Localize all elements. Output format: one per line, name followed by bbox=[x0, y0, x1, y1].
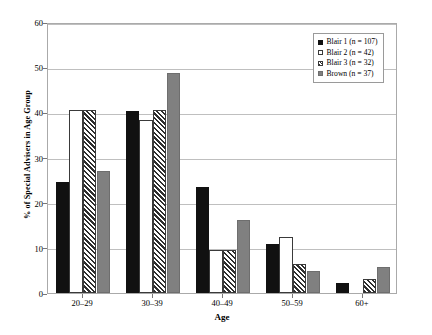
bar bbox=[126, 111, 139, 293]
x-tick-mark bbox=[82, 294, 83, 298]
y-tick-mark bbox=[43, 203, 47, 204]
x-tick-mark bbox=[362, 294, 363, 298]
y-tick-mark bbox=[43, 23, 47, 24]
bar bbox=[293, 264, 306, 293]
x-tick-mark bbox=[292, 294, 293, 298]
x-tick-label: 60+ bbox=[355, 298, 368, 308]
y-tick-mark bbox=[43, 248, 47, 249]
legend-label: Brown (n = 37) bbox=[327, 69, 374, 80]
bar bbox=[83, 110, 96, 293]
bar bbox=[223, 250, 236, 293]
y-tick-mark bbox=[43, 68, 47, 69]
bar bbox=[196, 187, 209, 293]
bar bbox=[363, 279, 376, 293]
bar bbox=[266, 244, 279, 293]
x-tick-label: 30–39 bbox=[141, 298, 162, 308]
y-tick-label: 20 bbox=[11, 199, 43, 209]
x-tick-label: 50–59 bbox=[281, 298, 302, 308]
bar bbox=[153, 110, 166, 293]
bar bbox=[56, 182, 69, 293]
x-tick-mark bbox=[152, 294, 153, 298]
bar bbox=[336, 283, 349, 293]
x-tick-mark bbox=[222, 294, 223, 298]
bar-chart: % of Special Advisers in Age Group 01020… bbox=[0, 0, 432, 335]
legend-label: Blair 3 (n = 32) bbox=[327, 58, 374, 69]
legend-item: Blair 2 (n = 42) bbox=[318, 48, 378, 59]
y-tick-label: 50 bbox=[11, 63, 43, 73]
legend-swatch-icon bbox=[318, 50, 323, 55]
bar bbox=[139, 120, 152, 293]
legend-item: Blair 1 (n = 107) bbox=[318, 37, 378, 48]
bar bbox=[167, 73, 180, 293]
y-tick-label: 40 bbox=[11, 108, 43, 118]
legend-swatch-icon bbox=[318, 71, 323, 76]
x-axis-title: Age bbox=[47, 312, 397, 322]
legend-swatch-icon bbox=[318, 40, 323, 45]
x-tick-label: 40–49 bbox=[211, 298, 232, 308]
y-tick-mark bbox=[43, 158, 47, 159]
bar bbox=[377, 267, 390, 293]
bar bbox=[209, 250, 222, 293]
y-tick-mark bbox=[43, 294, 47, 295]
legend-item: Brown (n = 37) bbox=[318, 69, 378, 80]
bar bbox=[279, 237, 292, 293]
bar bbox=[69, 110, 82, 293]
x-tick-label: 20–29 bbox=[71, 298, 92, 308]
bar-group bbox=[126, 24, 181, 293]
bar bbox=[307, 271, 320, 293]
bar bbox=[237, 220, 250, 293]
legend-label: Blair 2 (n = 42) bbox=[327, 48, 374, 59]
bar-group bbox=[56, 24, 111, 293]
legend-label: Blair 1 (n = 107) bbox=[327, 37, 378, 48]
legend-swatch-icon bbox=[318, 61, 323, 66]
y-tick-label: 60 bbox=[11, 18, 43, 28]
legend-item: Blair 3 (n = 32) bbox=[318, 58, 378, 69]
y-tick-label: 10 bbox=[11, 244, 43, 254]
y-tick-label: 0 bbox=[11, 289, 43, 299]
y-tick-mark bbox=[43, 113, 47, 114]
legend: Blair 1 (n = 107)Blair 2 (n = 42)Blair 3… bbox=[313, 33, 384, 83]
bar-group bbox=[196, 24, 251, 293]
y-tick-label: 30 bbox=[11, 154, 43, 164]
bar bbox=[97, 171, 110, 293]
